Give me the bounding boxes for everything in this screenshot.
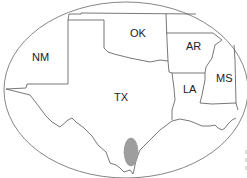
border-ar	[166, 33, 222, 73]
border-ok-top	[69, 13, 196, 14]
border-tx-panhandle	[68, 20, 168, 62]
map-container: NM OK AR TX LA MS	[0, 0, 247, 178]
state-label-la: LA	[183, 83, 197, 95]
state-label-nm: NM	[32, 51, 49, 63]
highlight-region[interactable]	[124, 138, 138, 166]
border-la-tx	[172, 73, 175, 120]
state-label-ms: MS	[216, 72, 233, 84]
state-label-tx: TX	[114, 91, 129, 103]
state-label-ok: OK	[130, 27, 147, 39]
map-svg: NM OK AR TX LA MS	[0, 0, 247, 178]
state-label-ar: AR	[186, 40, 201, 52]
border-ms-east	[234, 45, 236, 103]
